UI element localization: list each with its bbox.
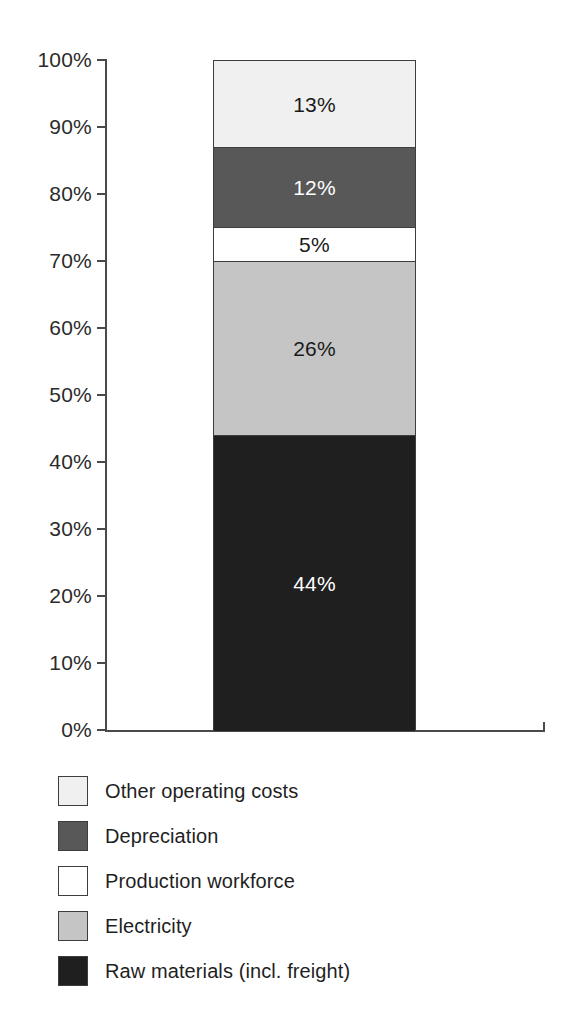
y-axis-tick-mark: [97, 327, 106, 329]
chart-legend: Other operating costsDepreciationProduct…: [58, 768, 538, 993]
legend-item-label: Electricity: [105, 916, 192, 936]
y-axis-tick-label: 30%: [49, 518, 92, 539]
y-axis-tick-mark: [97, 394, 106, 396]
bar-segment-value-label: 13%: [293, 94, 336, 115]
bar-segment[interactable]: 44%: [214, 436, 415, 731]
y-axis-tick-label: 60%: [49, 317, 92, 338]
bar-segment-value-label: 44%: [293, 573, 336, 594]
bar-segment-value-label: 26%: [293, 338, 336, 359]
legend-item-label: Other operating costs: [105, 781, 298, 801]
stacked-bar-chart: 100%90%80%70%60%50%40%30%20%10%0% 13%12%…: [0, 0, 571, 1033]
y-axis-tick-label: 40%: [49, 451, 92, 472]
y-axis-tick-mark: [97, 59, 106, 61]
bar-segment[interactable]: 13%: [214, 61, 415, 148]
legend-item[interactable]: Production workforce: [58, 858, 538, 903]
y-axis-tick-mark: [97, 461, 106, 463]
stacked-bar-column[interactable]: 13%12%5%26%44%: [213, 60, 416, 730]
y-axis-tick-mark: [97, 729, 106, 731]
y-axis-tick-mark: [97, 260, 106, 262]
y-axis-tick-mark: [97, 662, 106, 664]
y-axis-tick-label: 90%: [49, 116, 92, 137]
legend-color-swatch: [58, 776, 88, 806]
legend-item[interactable]: Other operating costs: [58, 768, 538, 813]
y-axis-tick-mark: [97, 193, 106, 195]
y-axis-tick-label: 20%: [49, 585, 92, 606]
bar-segment[interactable]: 5%: [214, 229, 415, 263]
legend-item-label: Production workforce: [105, 871, 295, 891]
y-axis-tick-label: 0%: [61, 719, 92, 740]
legend-item[interactable]: Raw materials (incl. freight): [58, 948, 538, 993]
bar-segment[interactable]: 12%: [214, 148, 415, 228]
y-axis-tick-label: 70%: [49, 250, 92, 271]
y-axis-tick-label: 10%: [49, 652, 92, 673]
legend-color-swatch: [58, 956, 88, 986]
legend-color-swatch: [58, 911, 88, 941]
legend-color-swatch: [58, 866, 88, 896]
y-axis-tick-label: 50%: [49, 384, 92, 405]
legend-item-label: Depreciation: [105, 826, 219, 846]
legend-item[interactable]: Electricity: [58, 903, 538, 948]
bar-segment[interactable]: 26%: [214, 262, 415, 436]
y-axis-tick-label: 100%: [37, 49, 92, 70]
y-axis-tick-label: 80%: [49, 183, 92, 204]
bar-segment-value-label: 12%: [293, 177, 336, 198]
legend-item-label: Raw materials (incl. freight): [105, 961, 350, 981]
plot-area: 100%90%80%70%60%50%40%30%20%10%0% 13%12%…: [0, 0, 571, 750]
bar-segment-value-label: 5%: [299, 234, 330, 255]
y-axis-tick-mark: [97, 528, 106, 530]
y-axis-tick-mark: [97, 595, 106, 597]
legend-item[interactable]: Depreciation: [58, 813, 538, 858]
y-axis-tick-mark: [97, 126, 106, 128]
legend-color-swatch: [58, 821, 88, 851]
x-axis-end-cap: [543, 722, 545, 732]
